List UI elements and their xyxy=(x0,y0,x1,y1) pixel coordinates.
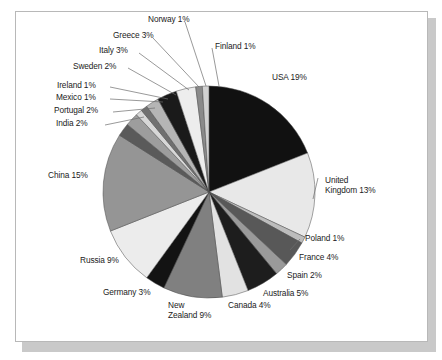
pie-label-united-kingdom-line1: United xyxy=(325,175,348,185)
pie-label-norway-text: Norway 1% xyxy=(148,14,190,24)
leader-line-greece xyxy=(153,38,199,87)
leader-line-sweden xyxy=(128,68,176,95)
pie-label-sweden-text: Sweden 2% xyxy=(73,61,116,71)
pie-label-mexico-text: Mexico 1% xyxy=(56,92,96,102)
pie-label-greece-text: Greece 3% xyxy=(113,30,154,40)
pie-label-russia: Russia 9% xyxy=(80,255,119,265)
pie-slice-group xyxy=(103,86,315,298)
pie-label-france-text: France 4% xyxy=(299,252,338,262)
pie-label-new-zealand-line2: Zealand 9% xyxy=(168,310,211,320)
pie-label-china: China 15% xyxy=(48,170,88,180)
pie-label-ireland-text: Ireland 1% xyxy=(57,80,96,90)
pie-label-china-text: China 15% xyxy=(48,170,88,180)
pie-label-portugal: Portugal 2% xyxy=(54,105,98,115)
pie-label-portugal-text: Portugal 2% xyxy=(54,105,98,115)
pie-label-finland: Finland 1% xyxy=(215,41,256,51)
pie-label-greece: Greece 3% xyxy=(113,30,154,40)
leader-line-finland xyxy=(212,48,219,86)
pie-label-sweden: Sweden 2% xyxy=(73,61,116,71)
pie-label-india-text: India 2% xyxy=(56,118,88,128)
pie-label-spain: Spain 2% xyxy=(287,270,322,280)
pie-chart-figure: Norway 1% Greece 3% Italy 3% Sweden 2% I… xyxy=(0,0,442,360)
pie-label-russia-text: Russia 9% xyxy=(80,255,119,265)
pie-label-australia-text: Australia 5% xyxy=(263,288,308,298)
pie-label-new-zealand: New Zealand 9% xyxy=(168,300,244,320)
pie-label-ireland: Ireland 1% xyxy=(57,80,96,90)
pie-label-france: France 4% xyxy=(299,252,338,262)
pie-label-united-kingdom: United Kingdom 13% xyxy=(325,175,401,195)
pie-label-australia: Australia 5% xyxy=(263,288,308,298)
leader-line-italy xyxy=(139,53,189,90)
pie-label-new-zealand-line1: New xyxy=(168,300,184,310)
pie-label-finland-text: Finland 1% xyxy=(215,41,256,51)
pie-label-germany-text: Germany 3% xyxy=(103,287,150,297)
pie-label-usa-text: USA 19% xyxy=(272,72,307,82)
pie-label-italy-text: Italy 3% xyxy=(99,45,128,55)
pie-label-poland-text: Poland 1% xyxy=(305,233,344,243)
pie-label-germany: Germany 3% xyxy=(103,287,150,297)
pie-label-india: India 2% xyxy=(56,118,88,128)
pie-label-norway: Norway 1% xyxy=(148,14,190,24)
leader-line-ireland xyxy=(110,87,168,99)
pie-label-spain-text: Spain 2% xyxy=(287,270,322,280)
pie-label-italy: Italy 3% xyxy=(99,45,128,55)
pie-label-mexico: Mexico 1% xyxy=(56,92,96,102)
pie-label-usa: USA 19% xyxy=(272,72,307,82)
pie-label-united-kingdom-line2: Kingdom 13% xyxy=(325,185,376,195)
pie-label-poland: Poland 1% xyxy=(305,233,344,243)
leader-line-norway xyxy=(185,22,206,86)
